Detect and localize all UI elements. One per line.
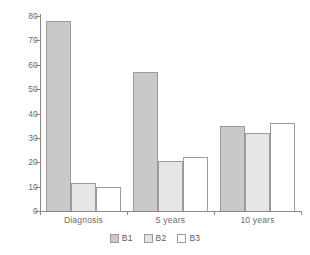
x-tick: [127, 211, 128, 215]
y-tick-label: 20: [0, 158, 38, 167]
y-axis-line: [40, 14, 41, 212]
x-tick: [40, 211, 41, 215]
legend-swatch-icon: [144, 234, 153, 243]
bar: [133, 72, 158, 211]
bar: [158, 161, 183, 211]
bar: [71, 183, 96, 211]
bar: [220, 126, 245, 211]
y-tick-label: 40: [0, 110, 38, 119]
legend-swatch-icon: [177, 234, 186, 243]
y-tick-label: 10: [0, 183, 38, 192]
legend-label: B2: [156, 234, 167, 243]
bar: [245, 133, 270, 211]
bar: [96, 187, 121, 211]
category-label: 10 years: [214, 216, 301, 225]
y-tick-label: 50: [0, 85, 38, 94]
legend-label: B1: [122, 234, 133, 243]
plot-area: 01020304050607080 Diagnosis5 years10 yea…: [0, 0, 310, 230]
bar: [270, 123, 295, 211]
legend-item: B2: [144, 234, 167, 243]
y-tick-label: 70: [0, 36, 38, 45]
legend-item: B3: [177, 234, 200, 243]
y-tick-label: 80: [0, 12, 38, 21]
category-label: Diagnosis: [40, 216, 127, 225]
category-label: 5 years: [127, 216, 214, 225]
legend-swatch-icon: [110, 234, 119, 243]
bar: [183, 157, 208, 211]
y-tick-label: 60: [0, 61, 38, 70]
legend-label: B3: [189, 234, 200, 243]
y-tick-label: 30: [0, 134, 38, 143]
x-tick: [214, 211, 215, 215]
legend-item: B1: [110, 234, 133, 243]
x-tick: [301, 211, 302, 215]
chart-figure: 01020304050607080 Diagnosis5 years10 yea…: [0, 0, 310, 255]
y-tick-label: 0: [0, 207, 38, 216]
x-axis-line: [40, 211, 301, 212]
bar: [46, 21, 71, 211]
chart-legend: B1B2B3: [0, 234, 310, 243]
